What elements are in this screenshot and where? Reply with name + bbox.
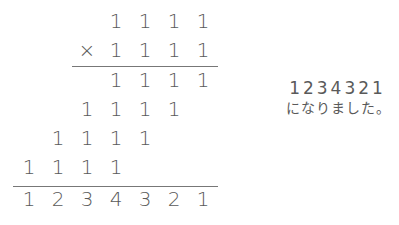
multiplicand-digit: 1 [135, 10, 155, 32]
result-digit: 1 [19, 188, 39, 210]
partial-product-digit: 1 [77, 127, 97, 149]
multiplier-digit: 1 [106, 39, 126, 61]
partial-product-digit: 1 [135, 127, 155, 149]
partial-product-digit: 1 [164, 98, 184, 120]
partial-product-digit: 1 [48, 156, 68, 178]
partial-product-digit: 1 [48, 127, 68, 149]
partial-product-digit: 1 [77, 98, 97, 120]
multiplier-digit: 1 [164, 39, 184, 61]
multiplier-digit: 1 [193, 39, 213, 61]
partial-product-digit: 1 [193, 69, 213, 91]
result-value: 1234321 [285, 78, 390, 98]
partial-product-digit: 1 [106, 127, 126, 149]
result-digit: 2 [48, 188, 68, 210]
multiply-operator: × [77, 39, 97, 61]
multiplicand-digit: 1 [164, 10, 184, 32]
result-digit: 3 [77, 188, 97, 210]
partial-product-digit: 1 [19, 156, 39, 178]
result-digit: 1 [193, 188, 213, 210]
multiplicand-digit: 1 [193, 10, 213, 32]
multiplier-digit: 1 [135, 39, 155, 61]
partial-product-digit: 1 [106, 69, 126, 91]
partial-product-digit: 1 [77, 156, 97, 178]
result-digit: 2 [164, 188, 184, 210]
result-digit: 3 [135, 188, 155, 210]
partial-product-digit: 1 [164, 69, 184, 91]
result-digit: 4 [106, 188, 126, 210]
partial-product-digit: 1 [135, 98, 155, 120]
partial-product-digit: 1 [106, 156, 126, 178]
partial-product-digit: 1 [106, 98, 126, 120]
multiplicand-digit: 1 [106, 10, 126, 32]
sum-line-top [72, 66, 218, 67]
partial-product-digit: 1 [135, 69, 155, 91]
result-caption: になりました。 [283, 97, 393, 117]
